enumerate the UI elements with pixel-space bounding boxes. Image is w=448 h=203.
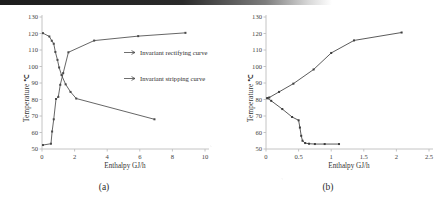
panel-caption-a: (a) xyxy=(84,182,124,192)
plot-area-a xyxy=(0,0,224,203)
legend-marker-stripping-icon xyxy=(124,76,137,81)
legend-label-stripping-a: Invariant stripping curve xyxy=(140,75,205,82)
data-series xyxy=(266,32,402,100)
plot-area-b xyxy=(224,0,448,203)
legend-label-rectifying-a: Invariant rectifying curve xyxy=(140,49,207,56)
chart-panel-a: Temperature ℃ 5060708090100110120130 024… xyxy=(0,0,224,203)
figure-container: Temperature ℃ 5060708090100110120130 024… xyxy=(0,0,448,203)
data-series xyxy=(266,97,340,145)
legend-item-stripping-a: Invariant stripping curve xyxy=(124,75,205,82)
legend-item-rectifying-a: Invariant rectifying curve xyxy=(124,49,207,56)
panel-caption-b: (b) xyxy=(308,182,348,192)
chart-panel-b: Temperature ℃ 5060708090100110120130 00.… xyxy=(224,0,448,203)
legend-marker-rectifying-icon xyxy=(124,50,137,55)
